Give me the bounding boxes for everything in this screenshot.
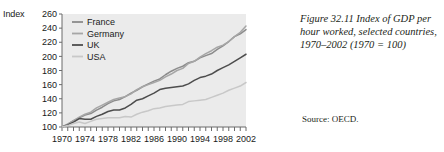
y-tick-label: 160 — [42, 80, 57, 90]
y-tick-label: 140 — [42, 94, 57, 104]
line-chart: 1001201401601802002202402601970197419781… — [0, 0, 290, 152]
legend-label-france: France — [87, 17, 115, 27]
x-tick-label: 2002 — [236, 134, 256, 144]
x-tick-label: 1970 — [52, 134, 72, 144]
y-tick-label: 240 — [42, 23, 57, 33]
y-tick-label: 200 — [42, 52, 57, 62]
figure-caption: Figure 32.11 Index of GDP per hour worke… — [300, 12, 440, 52]
y-tick-label: 220 — [42, 37, 57, 47]
y-tick-label: 100 — [42, 122, 57, 132]
x-tick-label: 1998 — [213, 134, 233, 144]
x-tick-label: 1982 — [121, 134, 141, 144]
x-tick-label: 1994 — [190, 134, 210, 144]
x-tick-label: 1990 — [167, 134, 187, 144]
caption-text: Figure 32.11 Index of GDP per hour worke… — [300, 12, 440, 52]
x-tick-label: 1978 — [98, 134, 118, 144]
x-tick-label: 1974 — [75, 134, 95, 144]
y-tick-label: 120 — [42, 108, 57, 118]
y-tick-label: 180 — [42, 66, 57, 76]
y-tick-label: 260 — [42, 9, 57, 19]
x-tick-label: 1986 — [144, 134, 164, 144]
legend-label-germany: Germany — [87, 29, 125, 39]
chart-figure: Index 1001201401601802002202402601970197… — [0, 0, 290, 152]
legend-label-uk: UK — [87, 40, 100, 50]
figure-page: Index 1001201401601802002202402601970197… — [0, 0, 444, 152]
legend-label-usa: USA — [87, 52, 106, 62]
source-note: Source: OECD. — [302, 114, 359, 124]
